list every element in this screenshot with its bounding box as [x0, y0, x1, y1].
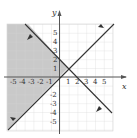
y-axis-arrow-icon [58, 10, 62, 16]
x-tick: -4 [19, 78, 26, 86]
y-tick: -4 [50, 109, 57, 117]
x-axis-arrow-icon [121, 75, 127, 79]
y-tick: 5 [53, 29, 57, 37]
x-tick: -1 [46, 78, 53, 86]
x-axis-label: x [122, 82, 127, 91]
x-tick: -5 [10, 78, 17, 86]
y-tick: 4 [53, 38, 58, 46]
y-tick: -5 [50, 118, 57, 126]
y-tick: -2 [50, 91, 57, 99]
inequality-graph: x y -5 -4 -3 -2 -1 1 2 3 4 5 5 4 3 2 1 -… [0, 0, 137, 138]
y-tick: -3 [50, 100, 57, 108]
x-tick: -2 [37, 78, 44, 86]
x-tick: 5 [102, 78, 106, 86]
y-axis-label: y [51, 8, 57, 17]
x-tick: 4 [93, 78, 98, 86]
x-tick: -3 [28, 78, 35, 86]
y-tick: 1 [53, 65, 57, 73]
x-tick: 1 [66, 78, 70, 86]
